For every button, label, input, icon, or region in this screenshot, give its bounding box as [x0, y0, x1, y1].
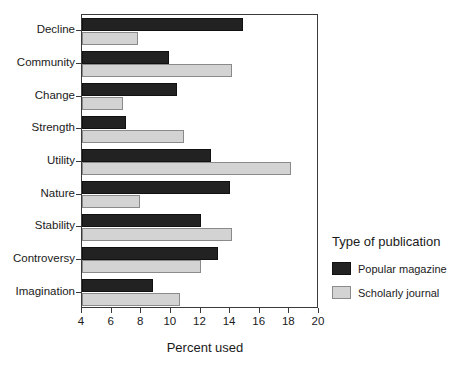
bar-change-popular-magazine	[82, 83, 177, 96]
x-tick-mark	[288, 308, 289, 313]
y-tick-label-change: Change	[0, 90, 75, 102]
x-tick-mark	[200, 308, 201, 313]
y-tick-mark	[76, 30, 81, 31]
y-tick-label-utility: Utility	[0, 155, 75, 167]
bar-group	[82, 178, 317, 211]
x-tick-label-10: 10	[157, 315, 183, 327]
y-tick-mark	[76, 96, 81, 97]
legend: Type of publication Popular magazineScho…	[332, 234, 452, 310]
bar-stability-popular-magazine	[82, 214, 201, 227]
x-tick-mark	[259, 308, 260, 313]
y-tick-mark	[76, 292, 81, 293]
y-tick-label-stability: Stability	[0, 220, 75, 232]
bar-stability-scholarly-journal	[82, 228, 232, 241]
bar-strength-scholarly-journal	[82, 130, 184, 143]
legend-label: Popular magazine	[358, 263, 447, 275]
x-tick-label-16: 16	[246, 315, 272, 327]
bar-group	[82, 276, 317, 309]
bar-decline-popular-magazine	[82, 18, 243, 31]
legend-entry: Popular magazine	[332, 262, 452, 275]
bar-controversy-popular-magazine	[82, 247, 218, 260]
bar-change-scholarly-journal	[82, 97, 123, 110]
y-tick-label-imagination: Imagination	[0, 286, 75, 298]
bar-strength-popular-magazine	[82, 116, 126, 129]
y-tick-mark	[76, 194, 81, 195]
x-tick-label-4: 4	[68, 315, 94, 327]
x-axis-title: Percent used	[120, 340, 290, 355]
bar-imagination-popular-magazine	[82, 279, 153, 292]
legend-label: Scholarly journal	[358, 287, 439, 299]
bar-nature-popular-magazine	[82, 181, 230, 194]
bar-group	[82, 48, 317, 81]
x-tick-label-6: 6	[98, 315, 124, 327]
bar-group	[82, 244, 317, 277]
y-tick-mark	[76, 161, 81, 162]
y-tick-label-nature: Nature	[0, 188, 75, 200]
x-tick-label-18: 18	[275, 315, 301, 327]
bar-group	[82, 15, 317, 48]
y-tick-mark	[76, 128, 81, 129]
y-tick-label-decline: Decline	[0, 24, 75, 36]
bar-decline-scholarly-journal	[82, 32, 138, 45]
bar-imagination-scholarly-journal	[82, 293, 180, 306]
x-tick-mark	[81, 308, 82, 313]
plot-area	[81, 14, 318, 308]
bar-utility-popular-magazine	[82, 149, 211, 162]
y-tick-mark	[76, 63, 81, 64]
x-tick-mark	[111, 308, 112, 313]
bar-community-scholarly-journal	[82, 64, 232, 77]
bar-utility-scholarly-journal	[82, 162, 291, 175]
x-tick-label-12: 12	[187, 315, 213, 327]
x-tick-mark	[318, 308, 319, 313]
y-tick-mark	[76, 259, 81, 260]
bar-nature-scholarly-journal	[82, 195, 140, 208]
legend-entry: Scholarly journal	[332, 286, 452, 299]
bar-community-popular-magazine	[82, 51, 169, 64]
bar-chart: DeclineCommunityChangeStrengthUtilityNat…	[0, 0, 455, 369]
bar-group	[82, 80, 317, 113]
bar-controversy-scholarly-journal	[82, 260, 201, 273]
legend-entries: Popular magazineScholarly journal	[332, 262, 452, 299]
y-tick-label-controversy: Controversy	[0, 253, 75, 265]
legend-title: Type of publication	[332, 234, 452, 249]
x-tick-mark	[170, 308, 171, 313]
y-tick-mark	[76, 226, 81, 227]
x-tick-label-20: 20	[305, 315, 331, 327]
y-tick-label-strength: Strength	[0, 122, 75, 134]
x-tick-label-14: 14	[216, 315, 242, 327]
x-tick-mark	[229, 308, 230, 313]
legend-swatch-icon	[332, 286, 351, 299]
y-tick-label-community: Community	[0, 57, 75, 69]
x-tick-mark	[140, 308, 141, 313]
bar-group	[82, 211, 317, 244]
bar-group	[82, 146, 317, 179]
bar-group	[82, 113, 317, 146]
x-tick-label-8: 8	[127, 315, 153, 327]
legend-swatch-icon	[332, 262, 351, 275]
